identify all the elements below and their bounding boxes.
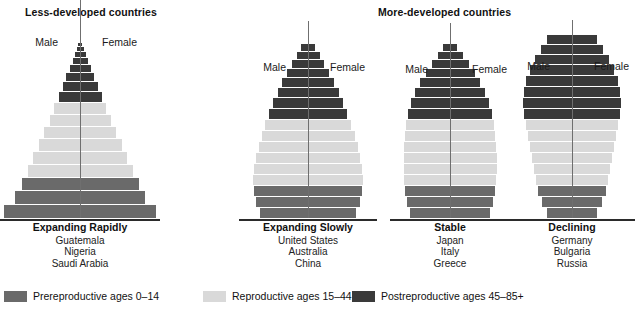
legend-item-postreproductive: Postreproductive ages 45–85+ xyxy=(352,289,524,303)
baseline xyxy=(390,219,511,221)
baseline xyxy=(239,219,377,221)
center-axis-line xyxy=(80,0,81,218)
center-axis-line xyxy=(450,23,451,218)
country-name: Germany xyxy=(492,235,636,247)
country-name: Nigeria xyxy=(0,246,160,258)
chart-area-expanding-slowly: MaleFemale xyxy=(228,22,388,218)
male-axis-label: Male xyxy=(263,61,286,73)
pyramid-panel-declining: MaleFemaleDecliningGermanyBulgariaRussia xyxy=(492,22,636,284)
country-name: Guatemala xyxy=(0,235,160,247)
chart-area-expanding-rapidly: MaleFemale xyxy=(0,22,160,218)
pyramid-caption-expanding-slowly: Expanding SlowlyUnited StatesAustraliaCh… xyxy=(228,222,388,269)
age-structure-diagram: Less-developed countries More-developed … xyxy=(0,0,636,316)
female-axis-label: Female xyxy=(472,63,507,75)
group-heading-more-developed: More-developed countries xyxy=(378,6,511,18)
female-axis-label: Female xyxy=(594,60,629,72)
legend: Prereproductive ages 0–14Reproductive ag… xyxy=(0,289,636,305)
legend-swatch-reproductive xyxy=(203,291,226,302)
legend-label: Reproductive ages 15–44 xyxy=(232,290,352,302)
legend-swatch-prereproductive xyxy=(4,291,27,302)
center-axis-line xyxy=(308,21,309,218)
country-name: China xyxy=(228,258,388,270)
female-axis-label: Female xyxy=(330,61,365,73)
chart-area-declining: MaleFemale xyxy=(492,22,636,218)
pyramid-panel-expanding-rapidly: MaleFemaleExpanding RapidlyGuatemalaNige… xyxy=(0,22,160,284)
legend-swatch-postreproductive xyxy=(352,291,375,302)
legend-item-prereproductive: Prereproductive ages 0–14 xyxy=(4,289,159,303)
male-axis-label: Male xyxy=(527,60,550,72)
pyramid-title: Expanding Rapidly xyxy=(0,222,160,234)
pyramid-caption-expanding-rapidly: Expanding RapidlyGuatemalaNigeriaSaudi A… xyxy=(0,222,160,269)
country-name: Australia xyxy=(228,246,388,258)
legend-label: Prereproductive ages 0–14 xyxy=(33,290,159,302)
pyramid-caption-declining: DecliningGermanyBulgariaRussia xyxy=(492,222,636,269)
country-name: Saudi Arabia xyxy=(0,258,160,270)
country-name: United States xyxy=(228,235,388,247)
female-axis-label: Female xyxy=(102,36,137,48)
country-name: Russia xyxy=(492,258,636,270)
pyramid-title: Expanding Slowly xyxy=(228,222,388,234)
legend-label: Postreproductive ages 45–85+ xyxy=(381,290,524,302)
center-axis-line xyxy=(572,20,573,218)
group-heading-less-developed: Less-developed countries xyxy=(25,6,157,18)
baseline xyxy=(0,219,160,221)
baseline xyxy=(509,219,635,221)
legend-item-reproductive: Reproductive ages 15–44 xyxy=(203,289,352,303)
male-axis-label: Male xyxy=(405,63,428,75)
country-name: Bulgaria xyxy=(492,246,636,258)
pyramid-title: Declining xyxy=(492,222,636,234)
pyramid-panel-expanding-slowly: MaleFemaleExpanding SlowlyUnited StatesA… xyxy=(228,22,388,284)
male-axis-label: Male xyxy=(35,36,58,48)
